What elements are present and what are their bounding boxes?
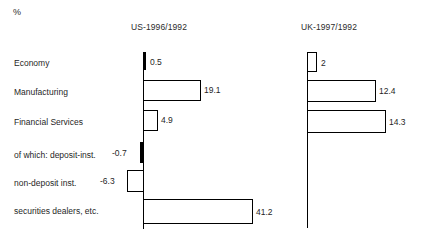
bar-us-deposit-inst [140,142,144,163]
category-label-economy: Economy [14,58,49,68]
category-label-financial-services: Financial Services [14,117,83,127]
value-label-uk-manufacturing: 12.4 [379,86,396,96]
category-label-manufacturing: Manufacturing [14,87,68,97]
percent-unit-label: % [13,7,21,17]
category-label-securities-dealers: securities dealers, etc. [14,206,99,216]
value-label-us-financial-services: 4.9 [161,115,173,125]
bar-uk-economy [307,52,317,72]
value-label-us-manufacturing: 19.1 [204,85,221,95]
bar-us-financial-services [143,110,158,131]
value-label-uk-economy: 2 [321,58,326,68]
value-label-us-deposit-inst: -0.7 [112,148,127,158]
value-label-uk-financial-services: 14.3 [389,117,406,127]
bar-us-manufacturing [143,80,201,101]
bar-us-securities-dealers [143,199,253,224]
bar-uk-manufacturing [307,80,376,102]
value-label-us-securities-dealers: 41.2 [256,207,273,217]
value-label-us-economy: 0.5 [150,57,162,67]
zero-axis-uk [307,52,309,228]
bar-us-non-deposit-inst [127,170,145,192]
value-label-us-non-deposit-inst: -6.3 [100,176,115,186]
category-label-non-deposit-inst: non-deposit inst. [14,178,76,188]
panel-title-uk: UK-1997/1992 [301,22,357,32]
category-label-deposit-inst: of which: deposit-inst. [14,150,96,160]
bar-chart-figure: % US-1996/1992 UK-1997/1992 Economy Manu… [0,0,421,238]
bar-us-economy [143,52,146,70]
bar-uk-financial-services [307,110,386,133]
panel-title-us: US-1996/1992 [131,22,187,32]
